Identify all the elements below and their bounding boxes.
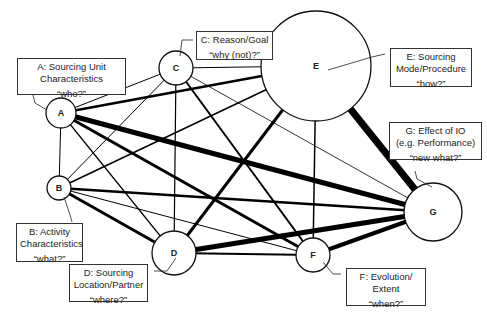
node-letter-a: A bbox=[58, 108, 65, 118]
label-box-b: B: Activity Characteristics “what?” bbox=[16, 223, 83, 262]
node-a: A bbox=[46, 98, 76, 128]
label-g-title-line1: G: Effect of IO bbox=[405, 125, 465, 136]
node-letter-d: D bbox=[171, 248, 178, 258]
node-b: B bbox=[47, 176, 71, 200]
edge-a-g bbox=[61, 113, 433, 212]
label-g-title-line2: (e.g. Performance) bbox=[396, 137, 475, 148]
label-d-question: “where?” bbox=[73, 294, 144, 306]
label-a-title-line2: Characteristics bbox=[40, 73, 103, 84]
leader-line-b bbox=[64, 197, 72, 222]
node-c: C bbox=[159, 51, 193, 85]
edge-c-d bbox=[174, 68, 176, 253]
node-letter-c: C bbox=[173, 63, 180, 73]
edge-b-g bbox=[59, 188, 433, 212]
label-f-title-line2: Extent bbox=[373, 283, 400, 294]
node-e: E bbox=[261, 11, 371, 121]
node-letter-e: E bbox=[313, 61, 319, 71]
label-b-title-line1: B: Activity bbox=[29, 226, 70, 237]
label-box-c: C: Reason/Goal “why (not)?” bbox=[196, 31, 273, 60]
label-b-title-line2: Characteristics bbox=[20, 238, 83, 249]
label-box-a: A: Sourcing Unit Characteristics “who?” bbox=[17, 58, 126, 95]
label-c-question: “why (not)?” bbox=[200, 49, 269, 61]
label-e-question: “how?” bbox=[394, 78, 468, 90]
label-e-title-line1: E: Sourcing bbox=[406, 51, 455, 62]
node-letter-b: B bbox=[56, 183, 63, 193]
label-d-title-line1: D: Sourcing bbox=[84, 267, 134, 278]
node-d: D bbox=[152, 231, 196, 275]
label-d-title-line2: Location/Partner bbox=[74, 279, 144, 290]
node-letter-f: F bbox=[310, 250, 316, 260]
label-a-title-line1: A: Sourcing Unit bbox=[37, 61, 106, 72]
label-g-question: “new what?” bbox=[393, 152, 478, 164]
node-g: G bbox=[404, 183, 462, 241]
node-letter-g: G bbox=[429, 207, 436, 217]
label-box-e: E: Sourcing Mode/Procedure “how?” bbox=[390, 48, 472, 87]
node-f: F bbox=[296, 238, 330, 272]
label-f-question: “when?” bbox=[350, 298, 422, 310]
label-e-title-line2: Mode/Procedure bbox=[396, 63, 466, 74]
label-a-question: “who?” bbox=[21, 88, 122, 100]
label-box-g: G: Effect of IO (e.g. Performance) “new … bbox=[389, 122, 482, 160]
label-c-title: C: Reason/Goal bbox=[201, 34, 269, 45]
label-f-title-line1: F: Evolution/ bbox=[360, 271, 413, 282]
label-box-f: F: Evolution/ Extent “when?” bbox=[346, 268, 426, 306]
label-box-d: D: Sourcing Location/Partner “where?” bbox=[69, 264, 148, 302]
